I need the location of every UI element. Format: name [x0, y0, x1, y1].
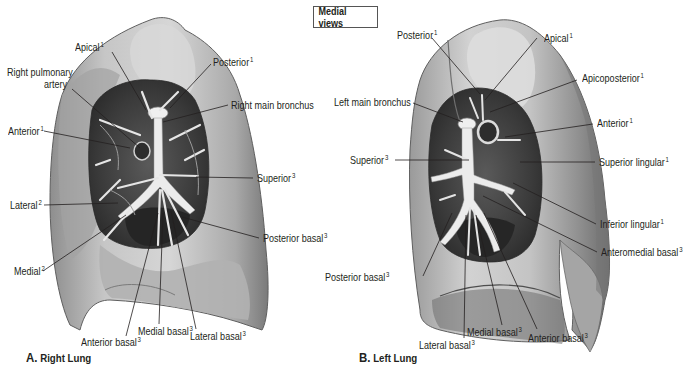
label-right-main-bronchus: Right main bronchus [231, 99, 314, 111]
label-apical: Apical1 [544, 32, 573, 46]
label-anterior: Anterior1 [8, 125, 44, 139]
label-anterior-basal: Anterior basal3 [528, 332, 588, 346]
caption-letter: B. [359, 350, 370, 365]
label-apical: Apical1 [75, 41, 104, 55]
label-superior-lingular: Superior lingular1 [599, 156, 669, 170]
caption-text: Right Lung [40, 352, 91, 364]
figure-title: Medial views [318, 5, 372, 29]
label-inferior-lingular: Inferior lingular1 [600, 218, 664, 232]
figure: Medial views Apical1 Right pulmonary art… [0, 0, 688, 366]
label-left-main-bronchus: Left main bronchus [334, 96, 411, 108]
label-apicoposterior: Apicoposterior1 [582, 72, 644, 86]
label-lateral-basal: Lateral basal3 [190, 330, 246, 344]
label-anteromedial-basal: Anteromedial basal3 [601, 246, 683, 260]
caption-text: Left Lung [373, 352, 417, 364]
label-lateral: Lateral2 [10, 199, 42, 213]
label-superior: Superior3 [350, 154, 388, 168]
caption-left-lung: B. Left Lung [359, 350, 417, 365]
label-posterior-basal: Posterior basal3 [263, 232, 327, 246]
label-medial-basal: Medial basal3 [467, 326, 522, 340]
label-superior: Superior3 [257, 172, 295, 186]
label-right-pulmonary-artery-line2: artery [44, 78, 67, 90]
label-posterior: Posterior1 [213, 56, 253, 70]
caption-letter: A. [26, 350, 37, 365]
label-medial: Medial2 [14, 265, 45, 279]
label-posterior-basal: Posterior basal3 [325, 271, 389, 285]
label-anterior-basal: Anterior basal3 [81, 336, 141, 350]
caption-right-lung: A. Right Lung [26, 350, 91, 365]
label-medial-basal: Medial basal3 [138, 325, 193, 339]
title-box: Medial views [313, 6, 378, 28]
left-lung [409, 20, 609, 352]
label-posterior: Posterior1 [397, 29, 437, 43]
label-anterior: Anterior1 [597, 117, 633, 131]
label-lateral-basal: Lateral basal3 [419, 339, 475, 353]
label-right-pulmonary-artery: Right pulmonary [7, 66, 73, 78]
